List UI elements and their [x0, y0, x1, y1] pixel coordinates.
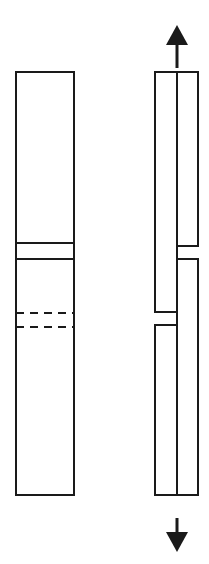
right-segment-upper — [177, 72, 198, 246]
left-segment-upper — [155, 72, 177, 312]
right-segment-lower — [177, 259, 198, 495]
left-segment-lower — [155, 325, 177, 495]
tension-arrow-down-head — [166, 532, 188, 552]
tension-arrow-up — [166, 25, 188, 68]
intact-specimen-fill — [16, 72, 74, 495]
figure-canvas — [0, 0, 209, 564]
right-panel-group — [155, 72, 198, 495]
left-panel-group — [16, 72, 74, 495]
tension-arrow-down — [166, 518, 188, 552]
tension-arrow-up-head — [166, 25, 188, 45]
figure-root — [0, 0, 209, 564]
